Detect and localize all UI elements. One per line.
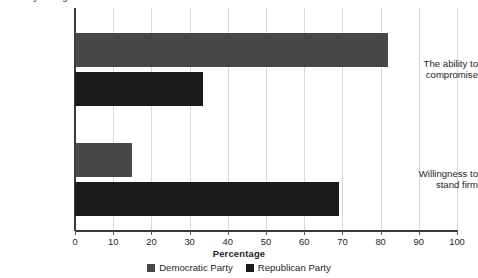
x-tick-mark xyxy=(304,231,305,235)
x-tick-label: 70 xyxy=(327,236,357,247)
x-tick-mark xyxy=(457,231,458,235)
bar xyxy=(75,143,132,177)
x-tick-mark xyxy=(266,231,267,235)
gridline xyxy=(419,8,420,230)
x-tick-label: 0 xyxy=(60,236,90,247)
x-tick-mark xyxy=(190,231,191,235)
x-axis-title: Percentage xyxy=(0,248,478,259)
legend-label: Democratic Party xyxy=(159,262,233,273)
clipped-chart-title: Survey of registered voters xyxy=(6,0,306,3)
x-tick-mark xyxy=(342,231,343,235)
x-tick-mark xyxy=(75,231,76,235)
x-tick-mark xyxy=(151,231,152,235)
category-label: Willingness tostand firm xyxy=(406,168,478,191)
x-tick-mark xyxy=(381,231,382,235)
category-label: The ability tocompromise xyxy=(406,58,478,81)
x-tick-mark xyxy=(228,231,229,235)
x-tick-label: 40 xyxy=(213,236,243,247)
x-tick-label: 10 xyxy=(98,236,128,247)
x-tick-label: 60 xyxy=(289,236,319,247)
x-tick-label: 100 xyxy=(442,236,472,247)
legend-item[interactable]: Republican Party xyxy=(246,262,331,273)
legend-item[interactable]: Democratic Party xyxy=(147,262,233,273)
x-tick-label: 30 xyxy=(175,236,205,247)
legend-swatch-icon xyxy=(246,264,254,272)
x-tick-label: 20 xyxy=(136,236,166,247)
x-tick-label: 90 xyxy=(404,236,434,247)
x-tick-label: 80 xyxy=(366,236,396,247)
chart-legend: Democratic PartyRepublican Party xyxy=(0,262,478,273)
bar xyxy=(75,33,388,67)
bar-chart: Survey of registered voters The ability … xyxy=(0,0,478,278)
bar xyxy=(75,182,339,216)
x-tick-mark xyxy=(419,231,420,235)
x-tick-label: 50 xyxy=(251,236,281,247)
gridline xyxy=(457,8,458,230)
legend-label: Republican Party xyxy=(258,262,331,273)
bar xyxy=(75,72,203,106)
x-tick-mark xyxy=(113,231,114,235)
legend-swatch-icon xyxy=(147,264,155,272)
